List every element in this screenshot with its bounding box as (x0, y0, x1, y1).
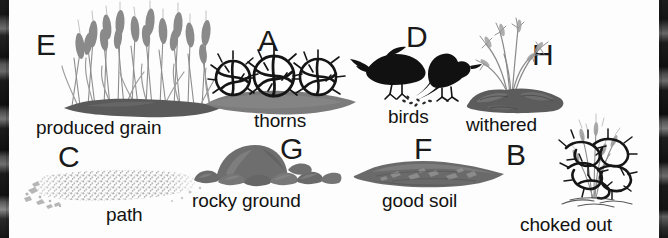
item-withered[interactable]: H (462, 14, 602, 134)
illustration-canvas: E (0, 0, 668, 238)
caption-produced-grain: produced grain (36, 117, 161, 138)
choked-plant-icon (548, 118, 648, 214)
item-rocky-ground[interactable]: G (192, 134, 352, 224)
item-birds[interactable]: D (358, 22, 478, 127)
wheat-stalks-icon (60, 14, 226, 118)
item-choked-out[interactable]: B (506, 118, 662, 236)
item-thorns[interactable]: A (206, 26, 356, 136)
caption-choked-out: choked out (520, 214, 612, 235)
caption-birds: birds (388, 106, 429, 127)
withered-plant-icon (462, 14, 582, 114)
item-produced-grain[interactable]: E (36, 14, 226, 134)
two-crows-icon (358, 44, 478, 106)
item-good-soil[interactable]: F (352, 134, 517, 224)
marker-letter-B: B (506, 140, 526, 170)
rocks-icon (192, 140, 342, 188)
item-path[interactable]: C (22, 142, 217, 232)
scan-edge-left (0, 0, 9, 238)
caption-thorns: thorns (254, 110, 306, 131)
caption-path: path (106, 204, 143, 225)
soil-mound-icon (352, 152, 507, 194)
caption-rocky-ground: rocky ground (192, 190, 301, 211)
caption-good-soil: good soil (382, 190, 457, 211)
marker-letter-E: E (36, 30, 56, 60)
